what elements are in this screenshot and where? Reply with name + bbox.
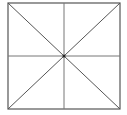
center-point <box>63 55 66 58</box>
diagram-canvas <box>0 0 127 115</box>
